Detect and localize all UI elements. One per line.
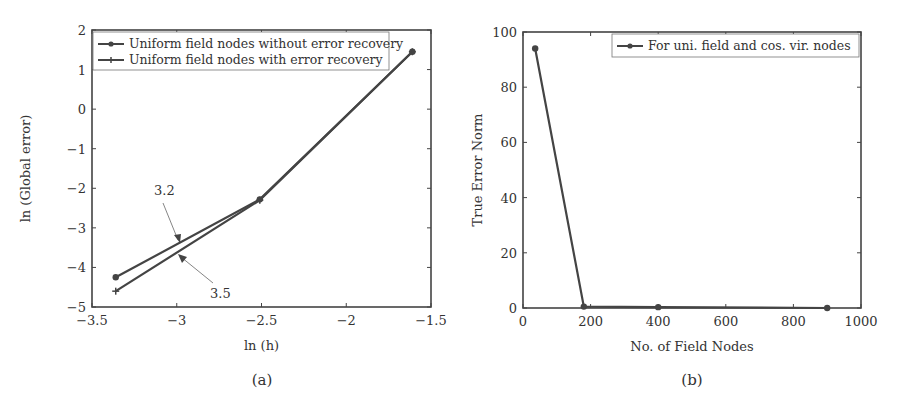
panel-caption: (b) — [681, 371, 702, 389]
y-tick-label: 1 — [78, 63, 86, 78]
x-tick-label: −1.5 — [415, 313, 447, 328]
series-line — [116, 52, 413, 291]
x-tick-label: 400 — [646, 314, 671, 329]
y-axis-label: ln (Global error) — [18, 115, 33, 223]
x-tick-label: −3.5 — [76, 313, 108, 328]
y-tick-label: 2 — [78, 23, 86, 38]
chart-panel-b: 02004006008001000100806040200No. of Fiel… — [470, 25, 878, 389]
slope-annotation: 3.2 — [154, 183, 175, 198]
panel-caption: (a) — [252, 371, 273, 389]
y-tick-label: −1 — [67, 142, 86, 157]
y-tick-label: 80 — [500, 80, 517, 95]
y-tick-label: −4 — [67, 260, 86, 275]
data-point — [532, 45, 538, 51]
data-point — [113, 274, 119, 280]
legend: Uniform field nodes without error recove… — [93, 32, 404, 70]
y-axis-label: True Error Norm — [470, 114, 485, 227]
y-tick-label: −5 — [67, 300, 86, 315]
legend-entry: For uni. field and cos. vir. nodes — [648, 38, 851, 53]
y-tick-label: 0 — [509, 301, 517, 316]
x-tick-label: 0 — [519, 314, 527, 329]
series-line — [535, 49, 827, 308]
legend-entry: Uniform field nodes without error recove… — [129, 36, 404, 51]
x-axis-label: ln (h) — [244, 338, 279, 353]
x-tick-label: 600 — [713, 314, 738, 329]
y-tick-label: −3 — [67, 221, 86, 236]
chart-panel-a: −3.5−3−2.5−2−1.5210−1−2−3−4−5ln (h)ln (G… — [18, 23, 447, 389]
plot-frame — [92, 30, 431, 307]
legend: For uni. field and cos. vir. nodes — [612, 34, 859, 57]
x-tick-label: −2 — [337, 313, 356, 328]
y-tick-label: 40 — [500, 191, 517, 206]
y-tick-label: 60 — [500, 135, 517, 150]
x-tick-label: 800 — [781, 314, 806, 329]
y-tick-label: 0 — [78, 102, 86, 117]
y-tick-label: 20 — [500, 246, 517, 261]
figure: −3.5−3−2.5−2−1.5210−1−2−3−4−5ln (h)ln (G… — [0, 0, 915, 413]
data-point — [824, 305, 830, 311]
legend-entry: Uniform field nodes with error recovery — [129, 52, 384, 67]
series-line — [116, 52, 413, 278]
y-tick-label: −2 — [67, 181, 86, 196]
x-tick-label: −2.5 — [246, 313, 278, 328]
x-axis-label: No. of Field Nodes — [630, 339, 753, 354]
x-tick-label: −3 — [167, 313, 186, 328]
data-point — [655, 304, 661, 310]
plot-frame — [523, 32, 861, 308]
y-tick-label: 100 — [492, 25, 517, 40]
x-tick-label: 1000 — [844, 314, 877, 329]
data-point — [581, 303, 587, 309]
slope-annotation: 3.5 — [210, 286, 231, 301]
x-tick-label: 200 — [578, 314, 603, 329]
